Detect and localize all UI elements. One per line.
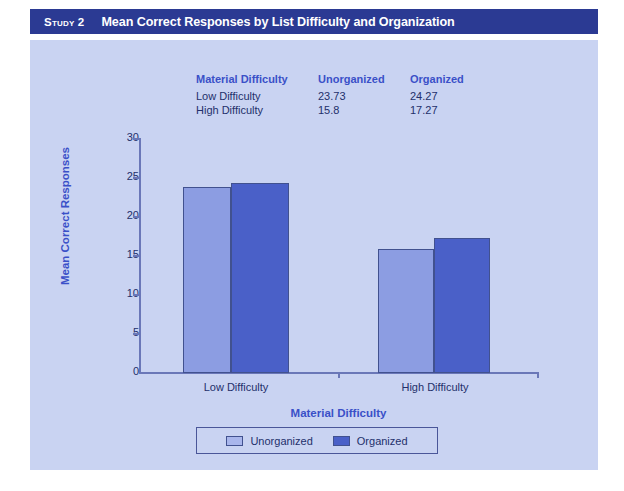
bar-chart-plot: Mean Correct Responses 30 25 20 15 10 (30, 40, 598, 470)
x-category-label-high: High Difficulty (375, 381, 495, 393)
y-tick-0: 0 (100, 372, 139, 373)
study-label: Study 2 (44, 16, 84, 28)
y-tick-mark-10 (133, 294, 139, 296)
x-tick-mid (338, 372, 340, 378)
x-tick-end (537, 372, 539, 378)
x-axis-title: Material Difficulty (139, 407, 538, 419)
legend-item-unorganized: Unorganized (226, 435, 312, 447)
y-tick-mark-5 (133, 333, 139, 335)
y-tick-mark-30 (133, 138, 139, 140)
y-axis-line (139, 138, 141, 372)
figure-title: Mean Correct Responses by List Difficult… (101, 15, 454, 29)
x-category-label-low: Low Difficulty (176, 381, 296, 393)
figure-header-bar: Study 2 Mean Correct Responses by List D… (30, 9, 598, 34)
figure-page: Study 2 Mean Correct Responses by List D… (0, 0, 624, 491)
legend-swatch-organized-icon (333, 436, 350, 446)
bar-low-difficulty-organized (231, 183, 289, 373)
figure-panel: Material Difficulty Unorganized Organize… (30, 40, 598, 470)
legend-swatch-unorganized-icon (226, 436, 243, 446)
legend-item-organized: Organized (333, 435, 408, 447)
legend-label-organized: Organized (357, 435, 408, 447)
y-axis-title: Mean Correct Responses (59, 136, 71, 296)
bar-high-difficulty-organized (434, 238, 490, 373)
bar-low-difficulty-unorganized (183, 187, 231, 373)
bar-high-difficulty-unorganized (378, 249, 434, 373)
y-tick-mark-25 (133, 177, 139, 179)
y-tick-mark-20 (133, 216, 139, 218)
legend-label-unorganized: Unorganized (250, 435, 312, 447)
y-tick-mark-15 (133, 255, 139, 257)
chart-legend: Unorganized Organized (196, 427, 438, 454)
